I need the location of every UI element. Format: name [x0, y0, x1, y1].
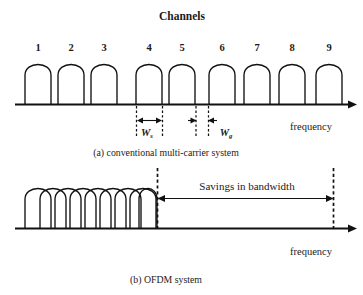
panel-a-spectra — [25, 65, 342, 105]
panel-a-axis-label: frequency — [290, 121, 333, 132]
channel-number-7: 7 — [254, 42, 259, 53]
channel-number-8: 8 — [289, 42, 294, 53]
channel-number-9: 9 — [326, 42, 331, 53]
savings-arrow — [158, 195, 334, 202]
panel-b-axis-arrowhead — [348, 225, 357, 233]
channel-lobe-4 — [136, 65, 162, 105]
subcarrier-lobe-2 — [40, 189, 66, 229]
subcarrier-lobe-5 — [85, 189, 111, 229]
subcarrier-lobe-8 — [130, 189, 156, 229]
channel-number-1: 1 — [35, 42, 40, 53]
measure-guard-band: Wg — [188, 106, 233, 139]
savings-arrowhead-left — [158, 195, 166, 202]
channel-lobe-6 — [209, 65, 235, 105]
measure-ws-label: Ws — [141, 127, 153, 139]
channel-lobe-9 — [316, 65, 342, 105]
channel-number-5: 5 — [179, 42, 184, 53]
wg-subscript: g — [228, 132, 233, 139]
channel-lobe-2 — [58, 65, 84, 105]
channel-lobe-1 — [25, 65, 51, 105]
channel-lobe-5 — [169, 65, 195, 105]
panel-a-caption: (a) conventional multi-carrier system — [93, 147, 239, 159]
savings-in-bandwidth-label: Savings in bandwidth — [199, 180, 295, 192]
panel-b-caption: (b) OFDM system — [130, 274, 202, 286]
panel-b: Savings in bandwidth frequency (b) OFDM … — [15, 168, 357, 286]
channel-lobe-8 — [279, 65, 305, 105]
subcarrier-lobe-7 — [115, 189, 141, 229]
subcarrier-lobe-6 — [100, 189, 126, 229]
panel-a-axis-arrowhead — [348, 101, 357, 109]
channel-number-6: 6 — [219, 42, 224, 53]
panel-b-spectra — [25, 189, 157, 229]
measure-wg-label: Wg — [220, 127, 233, 139]
ofdm-bandwidth-figure: Channels 1 2 3 4 5 6 7 8 9 — [0, 0, 363, 295]
panel-a-frequency-axis — [15, 101, 357, 109]
panel-a-channel-numbers: 1 2 3 4 5 6 7 8 9 — [35, 42, 331, 53]
subcarrier-lobe-4 — [70, 189, 96, 229]
channel-lobe-3 — [91, 65, 117, 105]
panel-a-title: Channels — [159, 10, 206, 22]
panel-b-axis-label: frequency — [290, 246, 333, 257]
channel-number-2: 2 — [68, 42, 73, 53]
figure-root: Channels 1 2 3 4 5 6 7 8 9 — [0, 0, 363, 295]
panel-a: Channels 1 2 3 4 5 6 7 8 9 — [15, 10, 357, 159]
channel-number-4: 4 — [146, 42, 152, 53]
channel-lobe-7 — [244, 65, 270, 105]
subcarrier-lobe-1 — [25, 189, 51, 229]
ws-subscript: s — [149, 132, 153, 139]
subcarrier-lobe-3 — [55, 189, 81, 229]
measure-signal-bandwidth: Ws — [137, 106, 163, 139]
savings-arrowhead-right — [326, 195, 334, 202]
channel-number-3: 3 — [101, 42, 106, 53]
